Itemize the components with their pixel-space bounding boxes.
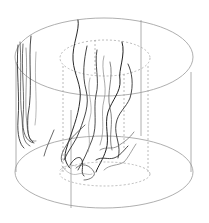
- roots-left-wall: [17, 36, 36, 148]
- root-cylinder-diagram: [0, 0, 209, 223]
- diagram-canvas: [0, 0, 209, 223]
- outer-bottom-ellipse: [15, 136, 193, 208]
- inner-top-ellipse: [60, 40, 150, 76]
- outer-cylinder: [15, 18, 193, 208]
- roots-central: [44, 20, 136, 180]
